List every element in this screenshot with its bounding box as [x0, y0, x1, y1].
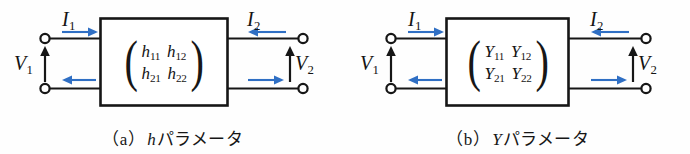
label-i2: I2: [590, 9, 603, 29]
return-arrow-bottom-left: [62, 76, 96, 85]
two-port-network-figure: ( h11 h12 h21 h22 ) I1 I2 V1 V2 （a）hパラメー…: [0, 0, 690, 154]
caption-letter: b: [464, 130, 474, 149]
caption-paren-close: ）: [473, 130, 491, 149]
caption-symbol: h: [146, 130, 157, 149]
matrix-cell: Y12: [511, 43, 531, 60]
caption-letter: a: [120, 130, 129, 149]
caption-paren-open: （: [102, 130, 120, 149]
matrix-rows: Y11 Y12 Y21 Y22: [483, 43, 532, 82]
matrix-row: h21 h22: [141, 65, 186, 82]
matrix-cell: h21: [141, 65, 160, 82]
matrix-cell: Y11: [484, 43, 504, 60]
label-v1: V1: [360, 53, 378, 73]
matrix-cell: Y22: [512, 65, 532, 82]
caption-text: パラメータ: [503, 130, 590, 149]
matrix-rows: h11 h12 h21 h22: [140, 43, 187, 82]
return-arrow-bottom-right: [591, 76, 627, 85]
label-i1: I1: [62, 9, 75, 29]
return-arrow-bottom-left: [408, 76, 442, 85]
voltage-arrow-v1: [40, 46, 50, 82]
terminal-bottom-left: [40, 84, 49, 93]
matrix-row: h11 h12: [141, 43, 186, 60]
caption-paren-close: ）: [128, 130, 146, 149]
terminal-bottom-right: [641, 84, 650, 93]
label-i1: I1: [408, 9, 421, 29]
matrix-open-paren: (: [467, 40, 480, 84]
terminal-top-right: [298, 34, 307, 43]
diagram-h-parameter: ( h11 h12 h21 h22 ) I1 I2 V1 V2 （a）hパラメー…: [0, 0, 345, 154]
caption-paren-open: （: [446, 130, 464, 149]
matrix-cell: Y21: [484, 65, 504, 82]
diagram-y-parameter: ( Y11 Y12 Y21 Y22 ) I1 I2 V1 V2 （b）Yパラメー…: [345, 0, 690, 154]
label-v2: V2: [638, 53, 656, 73]
terminal-top-left: [386, 34, 395, 43]
voltage-arrow-v1: [386, 46, 396, 82]
caption-symbol: Y: [491, 130, 502, 149]
matrix-close-paren: ): [190, 40, 203, 84]
matrix-cell: h22: [168, 65, 187, 82]
terminal-top-right: [641, 34, 650, 43]
label-v2: V2: [295, 53, 313, 73]
voltage-arrow-v2: [285, 46, 295, 82]
label-i2: I2: [247, 9, 260, 29]
terminal-top-left: [40, 34, 49, 43]
terminal-bottom-right: [298, 84, 307, 93]
caption-a: （a）hパラメータ: [0, 125, 345, 150]
matrix-cell: h11: [141, 43, 160, 60]
matrix-row: Y21 Y22: [484, 65, 531, 82]
matrix-close-paren: ): [535, 40, 548, 84]
matrix-h: ( h11 h12 h21 h22 ): [104, 26, 224, 98]
terminal-bottom-left: [386, 84, 395, 93]
label-v1: V1: [14, 53, 32, 73]
caption-b: （b）Yパラメータ: [345, 125, 690, 150]
caption-text: パラメータ: [157, 130, 244, 149]
matrix-row: Y11 Y12: [484, 43, 531, 60]
voltage-arrow-v2: [628, 46, 638, 82]
matrix-cell: h12: [167, 43, 186, 60]
return-arrow-bottom-right: [248, 76, 284, 85]
matrix-open-paren: (: [124, 40, 137, 84]
matrix-y: ( Y11 Y12 Y21 Y22 ): [449, 26, 567, 98]
